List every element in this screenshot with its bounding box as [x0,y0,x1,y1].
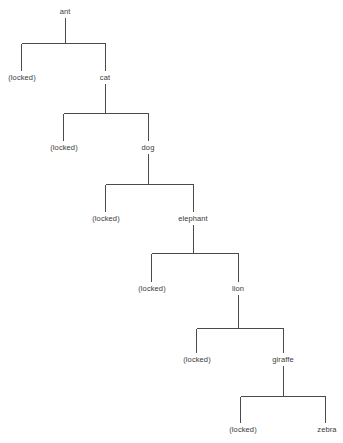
tree-node-ant[interactable]: ant [60,8,71,16]
tree-node-zebra[interactable]: zebra [317,426,336,434]
tree-node-l4: (locked) [138,285,165,293]
tree-node-l6: (locked) [229,426,256,434]
tree-node-l1: (locked) [8,74,35,82]
tree-diagram: ant(locked)cat(locked)dog(locked)elephan… [0,0,343,443]
tree-node-l3: (locked) [92,215,119,223]
tree-node-lion[interactable]: lion [232,285,244,293]
tree-node-dog[interactable]: dog [142,144,155,152]
tree-node-cat[interactable]: cat [100,74,110,82]
tree-node-l5: (locked) [183,356,210,364]
tree-node-giraffe[interactable]: giraffe [272,356,293,364]
tree-node-l2: (locked) [50,144,77,152]
tree-node-elephant[interactable]: elephant [178,215,208,223]
tree-connector-lines [0,0,343,443]
